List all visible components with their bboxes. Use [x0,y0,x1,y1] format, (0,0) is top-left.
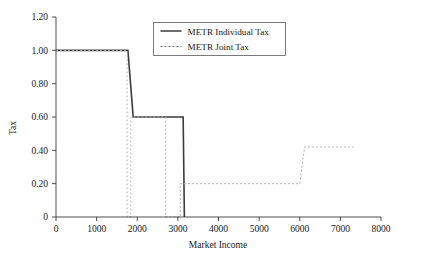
x-tick-label: 7000 [331,224,350,234]
chart-container: 00.200.400.600.801.001.20 01000200030004… [0,0,425,269]
metr-tax-line-chart: 00.200.400.600.801.001.20 01000200030004… [0,0,425,269]
x-tick-label: 1000 [87,224,106,234]
y-tick-label: 0.20 [31,179,48,189]
y-tick-label: 1.00 [31,46,48,56]
y-tick-label: 0.40 [31,146,48,156]
x-tick-label: 0 [54,224,59,234]
x-tick-label: 2000 [128,224,147,234]
x-tick-label: 8000 [372,224,391,234]
x-axis-title: Market Income [189,240,247,250]
legend-label: METR Joint Tax [188,42,250,52]
x-tick-label: 4000 [209,224,228,234]
legend-label: METR Individual Tax [188,27,270,37]
y-tick-label: 1.20 [31,12,48,22]
chart-legend: METR Individual TaxMETR Joint Tax [154,23,286,56]
x-tick-label: 5000 [250,224,269,234]
y-tick-label: 0.60 [31,112,48,122]
y-tick-label: 0 [43,212,48,222]
x-tick-label: 3000 [168,224,187,234]
y-axis-title: Tax [8,121,18,135]
y-tick-label: 0.80 [31,79,48,89]
x-tick-label: 6000 [290,224,309,234]
